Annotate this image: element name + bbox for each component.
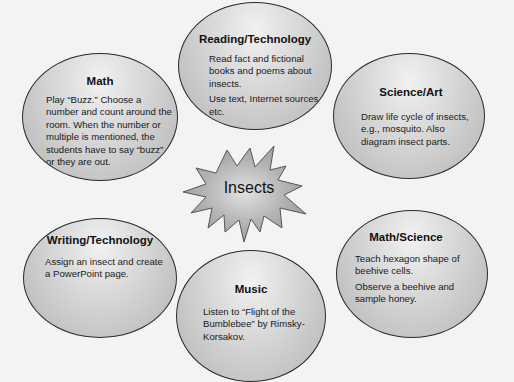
node-math: Math Play “Buzz.” Choose a number and co… bbox=[22, 53, 178, 181]
node-text: Assign an insect and create a PowerPoint… bbox=[45, 256, 163, 281]
node-science-art: Science/Art Draw life cycle of insects, … bbox=[333, 53, 485, 179]
center-label: Insects bbox=[182, 179, 316, 197]
node-text: Draw life cycle of insects, e.g., mosqui… bbox=[361, 111, 481, 148]
node-text: Teach hexagon shape of beehive cells. bbox=[355, 253, 475, 278]
node-text: Observe a beehive and sample honey. bbox=[355, 281, 475, 306]
node-text: Use text, Internet sources, etc. bbox=[209, 93, 321, 118]
node-reading-technology: Reading/Technology Read fact and fiction… bbox=[178, 2, 332, 130]
node-math-science: Math/Science Teach hexagon shape of beeh… bbox=[336, 210, 488, 338]
node-title: Science/Art bbox=[334, 86, 484, 98]
node-title: Writing/Technology bbox=[24, 234, 176, 246]
node-title: Math bbox=[23, 75, 177, 87]
node-title: Reading/Technology bbox=[179, 33, 331, 45]
node-text: Play “Buzz.” Choose a number and count a… bbox=[46, 94, 174, 168]
node-text: Read fact and fictional books and poems … bbox=[209, 53, 321, 90]
node-writing-technology: Writing/Technology Assign an insect and … bbox=[23, 218, 177, 338]
node-title: Math/Science bbox=[337, 231, 487, 243]
node-text: Listen to “Flight of the Bumblebee” by R… bbox=[203, 306, 313, 343]
center-topic: Insects bbox=[182, 140, 316, 242]
node-title: Music bbox=[177, 283, 325, 295]
node-music: Music Listen to “Flight of the Bumblebee… bbox=[176, 250, 326, 382]
